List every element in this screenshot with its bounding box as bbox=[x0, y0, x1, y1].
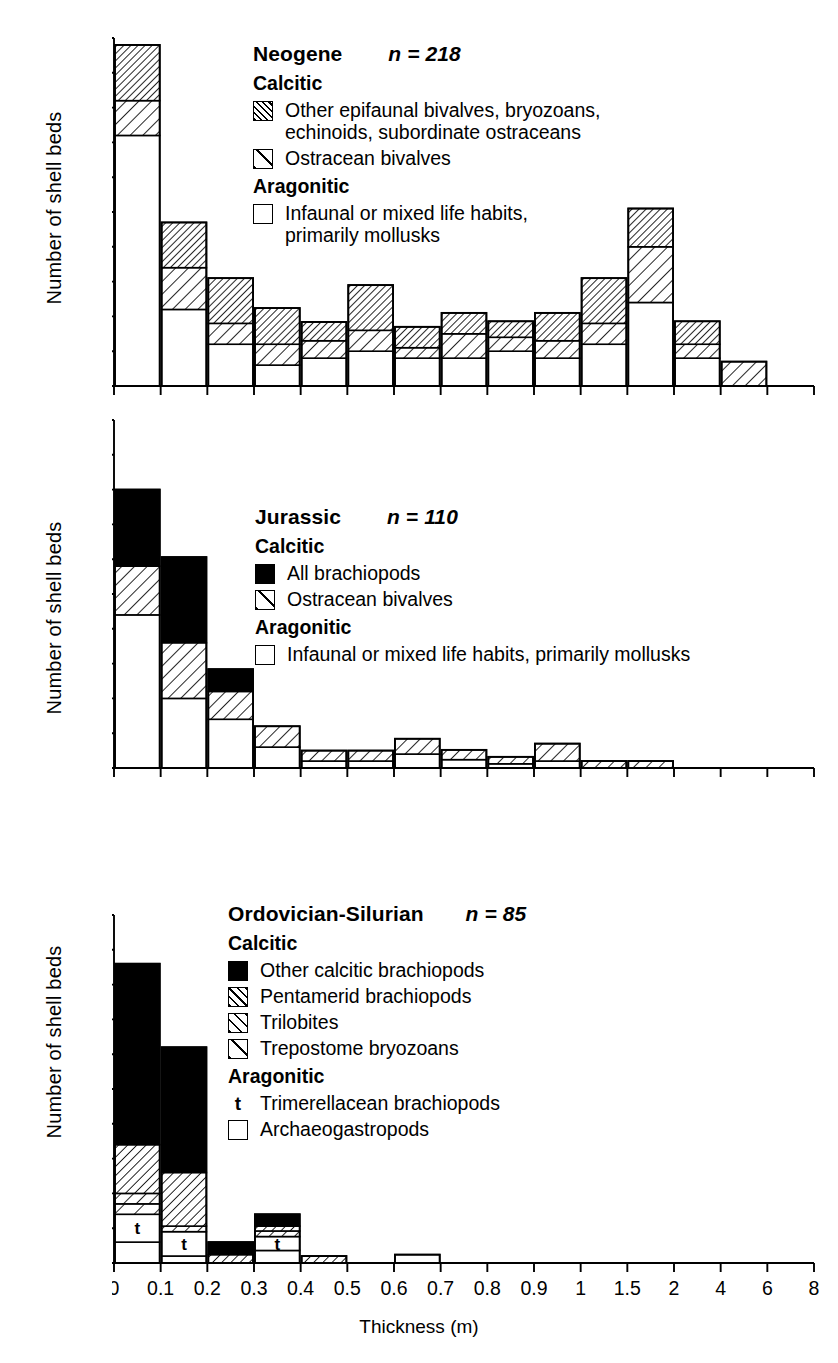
legend-entry-label: Other calcitic brachiopods bbox=[260, 959, 484, 981]
figure-page: Number of shell beds 01020304050 Neogene… bbox=[0, 0, 838, 1363]
legend-entry-label: Trilobites bbox=[260, 1011, 338, 1033]
bar-segment bbox=[162, 268, 207, 310]
x-tick-label: 0.2 bbox=[194, 1277, 221, 1299]
bar-segment bbox=[348, 351, 393, 386]
bar-segment bbox=[348, 751, 393, 761]
x-tick-label: 6 bbox=[762, 1277, 773, 1299]
bar-segment bbox=[255, 1231, 300, 1237]
legend-entry[interactable]: Ostracean bivalves bbox=[255, 588, 690, 610]
legend-swatch-solid bbox=[255, 564, 275, 584]
panel-title-jurassic: Jurassic n = 110 bbox=[255, 505, 690, 529]
bar-segment bbox=[115, 101, 160, 136]
bar-segment bbox=[348, 285, 393, 330]
legend-entry-label: Infaunal or mixed life habits, primarily… bbox=[285, 202, 528, 246]
bar-segment bbox=[115, 1204, 160, 1214]
legend-swatch-white bbox=[255, 645, 275, 665]
bar-segment bbox=[395, 754, 440, 768]
legend-entry[interactable]: Ostracean bivalves bbox=[253, 147, 600, 169]
legend-entry-label: Ostracean bivalves bbox=[285, 147, 451, 169]
legend-entry-label: Pentamerid brachiopods bbox=[260, 985, 471, 1007]
bar-segment bbox=[535, 744, 580, 761]
bar-segment bbox=[208, 691, 253, 719]
bar-segment bbox=[395, 1255, 440, 1263]
legend-body-jurassic: CalciticAll brachiopodsOstracean bivalve… bbox=[255, 535, 690, 665]
bar-segment bbox=[395, 358, 440, 386]
legend-group-heading: Calcitic bbox=[255, 535, 690, 558]
x-tick-label: 0.1 bbox=[147, 1277, 174, 1299]
y-axis-label-neogene: Number of shell beds bbox=[43, 58, 66, 358]
bar-segment bbox=[582, 323, 627, 344]
bar-segment bbox=[442, 358, 487, 386]
bar-segment bbox=[302, 1256, 347, 1263]
legend-entry[interactable]: Other epifaunal bivalves, bryozoans, ech… bbox=[253, 99, 600, 143]
legend-entry[interactable]: Archaeogastropods bbox=[228, 1118, 526, 1140]
bar-segment bbox=[162, 557, 207, 643]
legend-entry[interactable]: tTrimerellacean brachiopods bbox=[228, 1092, 526, 1114]
t-marker-icon: t bbox=[228, 1094, 248, 1114]
n-value-neogene: n = 218 bbox=[388, 42, 461, 65]
bar-t-marker: t bbox=[134, 1219, 140, 1238]
legend-swatch-hatch-single bbox=[253, 149, 273, 169]
legend-entry[interactable]: All brachiopods bbox=[255, 562, 690, 584]
legend-entry[interactable]: Infaunal or mixed life habits, primarily… bbox=[253, 202, 600, 246]
panel-jurassic: Number of shell beds 01020304050 Jurassi… bbox=[0, 410, 838, 825]
bar-segment bbox=[348, 761, 393, 768]
legend-ordovician-silurian: Ordovician-Silurian n = 85 CalciticOther… bbox=[228, 902, 526, 1140]
bar-segment bbox=[488, 351, 533, 386]
bar-segment bbox=[208, 669, 253, 691]
bar-segment bbox=[582, 761, 627, 768]
bar-segment bbox=[302, 358, 347, 386]
y-axis-label-jurassic: Number of shell beds bbox=[43, 468, 66, 768]
legend-neogene: Neogene n = 218 CalciticOther epifaunal … bbox=[253, 42, 600, 246]
x-tick-label: 4 bbox=[715, 1277, 726, 1299]
legend-entry[interactable]: Other calcitic brachiopods bbox=[228, 959, 526, 981]
legend-entry-label: Ostracean bivalves bbox=[287, 588, 453, 610]
bar-segment bbox=[302, 761, 347, 768]
bar-segment bbox=[115, 566, 160, 615]
bar-segment bbox=[115, 135, 160, 386]
bar-segment bbox=[115, 1145, 160, 1194]
bar-segment bbox=[115, 490, 160, 567]
x-tick-label: 0.4 bbox=[287, 1277, 314, 1299]
x-tick-label: 0.8 bbox=[474, 1277, 501, 1299]
legend-entry-label: Infaunal or mixed life habits, primarily… bbox=[287, 643, 690, 665]
legend-group-heading: Aragonitic bbox=[253, 175, 600, 198]
bar-segment bbox=[255, 1214, 300, 1226]
legend-swatch-hatch-single bbox=[228, 1039, 248, 1059]
legend-entry[interactable]: Trilobites bbox=[228, 1011, 526, 1033]
bar-segment bbox=[115, 1242, 160, 1263]
legend-entry[interactable]: Trepostome bryozoans bbox=[228, 1037, 526, 1059]
x-tick-label: 1 bbox=[575, 1277, 586, 1299]
legend-entry[interactable]: Infaunal or mixed life habits, primarily… bbox=[255, 643, 690, 665]
bar-t-marker: t bbox=[274, 1235, 280, 1254]
bar-segment bbox=[162, 1173, 207, 1227]
bar-segment bbox=[722, 362, 767, 386]
bar-segment bbox=[535, 761, 580, 768]
bar-segment bbox=[348, 330, 393, 351]
bar-segment bbox=[115, 615, 160, 768]
bar-segment bbox=[628, 247, 673, 303]
panel-neogene: Number of shell beds 01020304050 Neogene… bbox=[0, 0, 838, 415]
bar-segment bbox=[162, 643, 207, 699]
y-axis-label-ordsil: Number of shell beds bbox=[43, 892, 66, 1192]
bar-segment bbox=[115, 1193, 160, 1203]
bar-segment bbox=[395, 327, 440, 348]
legend-entry-label: Trepostome bryozoans bbox=[260, 1037, 459, 1059]
legend-swatch-hatch-single bbox=[255, 590, 275, 610]
bar-segment bbox=[628, 761, 673, 768]
legend-entry[interactable]: Pentamerid brachiopods bbox=[228, 985, 526, 1007]
x-tick-label: 0.7 bbox=[427, 1277, 454, 1299]
n-value-ordsil: n = 85 bbox=[466, 902, 527, 925]
bar-segment bbox=[302, 322, 347, 341]
bar-segment bbox=[442, 760, 487, 768]
bar-segment bbox=[208, 278, 253, 323]
bar-segment bbox=[162, 309, 207, 386]
bar-segment bbox=[208, 1242, 253, 1255]
bar-segment bbox=[442, 334, 487, 358]
bar-segment bbox=[162, 1047, 207, 1172]
legend-group-heading: Calcitic bbox=[228, 932, 526, 955]
panel-title-neogene: Neogene n = 218 bbox=[253, 42, 600, 66]
legend-entry-label: Other epifaunal bivalves, bryozoans, ech… bbox=[285, 99, 600, 143]
bar-segment bbox=[675, 321, 720, 344]
x-tick-label: 0.9 bbox=[520, 1277, 547, 1299]
